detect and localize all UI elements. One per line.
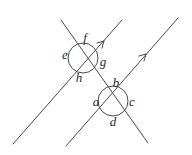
angle-label-g: g (100, 55, 107, 68)
parallel-line-upper (13, 20, 122, 144)
angle-label-e: e (62, 48, 68, 61)
transversal-line (61, 20, 148, 143)
lower-intersection-circle (98, 86, 128, 116)
angle-label-c: c (129, 95, 135, 108)
angle-label-f: f (83, 31, 87, 44)
geometry-canvas (0, 0, 192, 155)
angle-label-h: h (76, 71, 83, 84)
geometry-figure: e f g h a b c d (0, 0, 192, 155)
angle-label-a: a (93, 95, 100, 108)
angle-label-b: b (113, 76, 120, 89)
angle-label-d: d (110, 115, 117, 128)
upper-intersection-circle (68, 43, 98, 73)
